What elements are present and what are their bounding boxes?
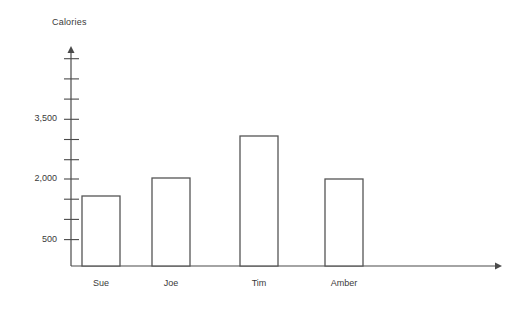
bar-amber (325, 179, 363, 266)
y-tick-label-500: 500 (8, 234, 57, 244)
x-tick-label-joe: Joe (141, 278, 201, 288)
x-tick-label-sue: Sue (71, 278, 131, 288)
y-tick-label-3500: 3,500 (8, 113, 57, 123)
x-tick-label-amber: Amber (314, 278, 374, 288)
x-tick-label-tim: Tim (229, 278, 289, 288)
y-tick-label-2000: 2,000 (8, 173, 57, 183)
y-axis-title: Calories (52, 17, 87, 27)
bar-chart: Calories 3,500 2,000 500 Sue Joe Tim Amb… (0, 0, 525, 311)
bar-tim (240, 136, 278, 266)
chart-canvas (0, 0, 525, 311)
bar-sue (82, 196, 120, 266)
bars-group (82, 136, 363, 266)
bar-joe (152, 178, 190, 266)
